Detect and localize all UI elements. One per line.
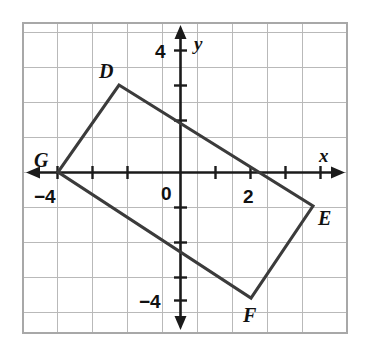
y-tick-label-4: 4 (155, 41, 166, 62)
y-axis-label: y (192, 33, 203, 54)
axes (26, 25, 345, 330)
axis-ticks (58, 51, 321, 301)
grid-lines (22, 22, 347, 333)
vertex-label-e: E (317, 207, 331, 229)
x-axis-arrow-right (331, 167, 345, 179)
x-tick-label-2: 2 (243, 186, 254, 207)
y-axis-arrow-down (175, 316, 187, 330)
y-tick-label-neg4: −4 (139, 291, 161, 312)
quadrilateral-defg (58, 85, 313, 298)
coordinate-plane-svg: D E F G y x 0 −4 2 4 −4 (0, 0, 368, 351)
origin-label: 0 (161, 183, 172, 204)
x-axis-label: x (318, 145, 329, 166)
grid-frame (23, 23, 347, 333)
x-tick-label-neg4: −4 (34, 186, 56, 207)
shape-outline (58, 85, 313, 298)
vertex-label-d: D (98, 60, 113, 82)
vertex-label-f: F (242, 304, 257, 326)
coordinate-plane-figure: D E F G y x 0 −4 2 4 −4 (0, 0, 368, 351)
vertex-label-g: G (34, 149, 49, 171)
labels: D E F G y x 0 −4 2 4 −4 (34, 33, 331, 326)
